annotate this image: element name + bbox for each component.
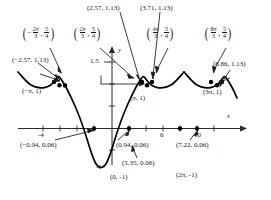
fraction-y: 5 4 — [91, 26, 96, 39]
coord-label-pi: (π, 1) — [130, 95, 145, 102]
point-min-pi — [145, 83, 149, 87]
x-axis-label: x — [227, 113, 230, 120]
coord-label-2pi-n1: (2π, -1) — [176, 172, 197, 179]
point-max-right-of-npi — [63, 83, 67, 87]
neg-sign: − — [27, 28, 31, 37]
graph-figure: ( − 2π 3 , 5 4 ) ( 2π 3 , 5 4 ) ( 4π 3 , — [0, 0, 271, 200]
paren-close: ) — [170, 27, 174, 39]
comma: , — [219, 29, 221, 39]
coord-label-535: (5.35, 0.06) — [122, 160, 155, 167]
coord-label-0-n1: (0, -1) — [110, 174, 128, 181]
point-min-npi-2 — [57, 83, 61, 87]
paren-open: ( — [205, 27, 209, 39]
x-axis — [18, 126, 247, 132]
paren-close: ) — [97, 27, 101, 39]
coord-label-max-8pi-3: ( 8π 3 , 5 4 ) — [204, 26, 232, 39]
coord-label-npi: (−π, 1) — [22, 88, 41, 95]
fraction-y: 5 4 — [164, 26, 169, 39]
coord-label-max-2pi-3: ( 2π 3 , 5 4 ) — [73, 26, 101, 39]
y-tick-label-1-5: 1.5 — [90, 58, 99, 65]
coord-label-8-86: (8.86, 1.13) — [213, 61, 246, 68]
coord-label-2-57: (2.57, 1.13) — [87, 5, 120, 12]
paren-close: ) — [228, 27, 232, 39]
point-max-2-57 — [140, 80, 144, 84]
y-tick-label-neg1: -1 — [96, 164, 102, 171]
x-tick-label-neg4: -4 — [38, 132, 44, 139]
fraction-x: 2π 3 — [79, 26, 87, 39]
point-x-094 — [127, 126, 131, 130]
coord-label-722: (7.22, 0.06) — [176, 142, 209, 149]
coord-label-max-neg-2pi-3: ( − 2π 3 , 5 4 ) — [22, 26, 55, 39]
point-x-535 — [178, 126, 182, 130]
fraction-y: 5 4 — [222, 26, 227, 39]
fraction-x: 8π 3 — [210, 26, 218, 39]
paren-close: ) — [50, 27, 54, 39]
coord-label-094: (0.94, 0.06) — [116, 142, 149, 149]
plot-points — [52, 80, 224, 131]
coord-label-3-71: (3.71, 1.13) — [140, 5, 173, 12]
point-max-3-71 — [150, 80, 154, 84]
comma: , — [88, 29, 90, 39]
paren-open: ( — [147, 27, 151, 39]
coord-label-max-4pi-3: ( 4π 3 , 5 4 ) — [146, 26, 174, 39]
paren-open: ( — [74, 27, 78, 39]
coord-label-n094: (−0.94, 0.06) — [20, 142, 57, 149]
fraction-x: 4π 3 — [152, 26, 160, 39]
coord-label-3pi: (3π, 1) — [203, 89, 222, 96]
comma: , — [161, 29, 163, 39]
comma: , — [41, 29, 43, 39]
x-tick-label-10: 10 — [194, 132, 201, 139]
coord-label-n2-57: (−2.57, 1.13) — [12, 57, 49, 64]
fraction-x: 2π 3 — [32, 26, 40, 39]
point-max-8-86 — [209, 80, 213, 84]
paren-open: ( — [23, 27, 27, 39]
y-axis-label: y — [118, 47, 121, 54]
function-curve — [11, 58, 237, 168]
fraction-y: 5 4 — [44, 26, 49, 39]
x-tick-label-6: 6 — [160, 132, 164, 139]
